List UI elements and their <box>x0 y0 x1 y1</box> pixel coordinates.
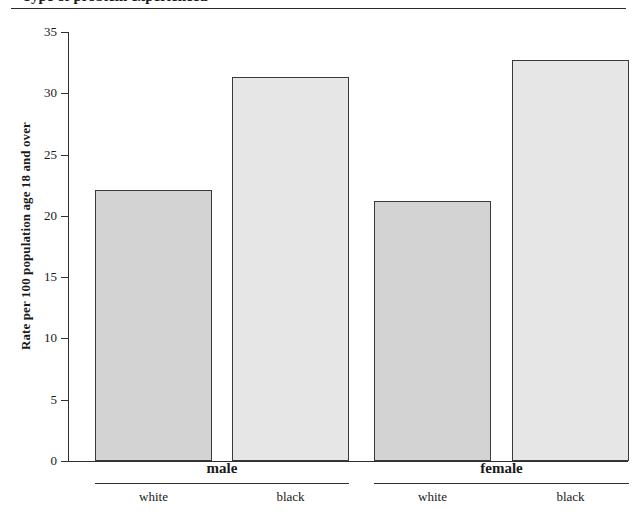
chart-title-text: Type of problem experienced <box>22 0 622 5</box>
y-axis-tick-label: 15 <box>44 269 57 285</box>
y-axis-tick: 35 <box>61 32 68 33</box>
x-axis-subcategory-label: white <box>95 489 212 505</box>
y-axis-tick: 0 <box>61 461 68 462</box>
y-axis-tick: 30 <box>61 93 68 94</box>
plot-area: 05101520253035 <box>68 32 628 461</box>
x-axis-group-rule <box>95 483 349 484</box>
bar <box>512 60 629 461</box>
chart-title-cropped: Type of problem experienced <box>22 0 622 7</box>
x-axis-subcategory-label: black <box>512 489 629 505</box>
x-axis-subcategory-label: white <box>374 489 491 505</box>
x-axis-group-label: male <box>95 460 349 477</box>
x-axis-subcategory-label: black <box>232 489 349 505</box>
title-divider-rule <box>11 8 626 9</box>
y-axis-tick: 10 <box>61 338 68 339</box>
bar <box>374 201 491 461</box>
bar <box>95 190 212 461</box>
y-axis-tick: 20 <box>61 216 68 217</box>
y-axis-tick-label: 30 <box>44 85 57 101</box>
bar <box>232 77 349 461</box>
y-axis-tick: 15 <box>61 277 68 278</box>
x-axis-group-rule <box>374 483 629 484</box>
x-axis-group-label: female <box>374 460 629 477</box>
chart-figure: Type of problem experienced Rate per 100… <box>0 0 636 513</box>
y-axis-tick: 25 <box>61 155 68 156</box>
y-axis-tick-label: 35 <box>44 24 57 40</box>
y-axis-tick: 5 <box>61 400 68 401</box>
y-axis-tick-label: 10 <box>44 330 57 346</box>
y-axis-tick-label: 25 <box>44 147 57 163</box>
y-axis-line <box>68 32 69 461</box>
y-axis-title: Rate per 100 population age 18 and over <box>18 106 34 366</box>
y-axis-tick-label: 5 <box>51 392 58 408</box>
y-axis-tick-label: 20 <box>44 208 57 224</box>
y-axis-tick-label: 0 <box>51 453 58 469</box>
